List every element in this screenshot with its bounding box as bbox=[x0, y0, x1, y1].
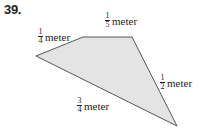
label-right-side: 1 2 meter bbox=[160, 74, 192, 91]
denominator: 4 bbox=[78, 106, 82, 114]
denominator: 4 bbox=[39, 37, 43, 45]
fraction: 3 4 bbox=[77, 97, 82, 114]
unit-text: meter bbox=[112, 15, 137, 27]
label-bottom-side: 3 4 meter bbox=[77, 97, 109, 114]
fraction: 1 2 bbox=[160, 74, 165, 91]
label-left-side: 1 4 meter bbox=[38, 28, 70, 45]
unit-text: meter bbox=[167, 77, 192, 89]
numerator: 1 bbox=[39, 28, 43, 36]
denominator: 5 bbox=[106, 21, 110, 29]
unit-text: meter bbox=[84, 100, 109, 112]
quadrilateral-figure bbox=[0, 0, 202, 137]
fraction: 1 5 bbox=[105, 12, 110, 29]
numerator: 1 bbox=[106, 12, 110, 20]
numerator: 3 bbox=[78, 97, 82, 105]
denominator: 2 bbox=[161, 83, 165, 91]
numerator: 1 bbox=[161, 74, 165, 82]
label-top-side: 1 5 meter bbox=[105, 12, 137, 29]
unit-text: meter bbox=[45, 31, 70, 43]
fraction: 1 4 bbox=[38, 28, 43, 45]
